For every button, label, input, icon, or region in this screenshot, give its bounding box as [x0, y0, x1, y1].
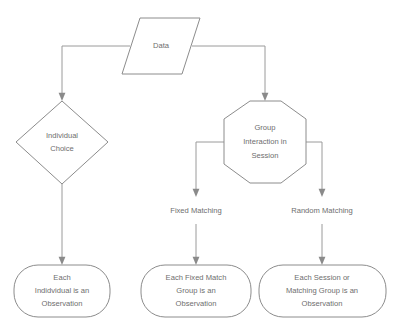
node-individual-observation-label-line1: Each [53, 273, 70, 282]
flowchart-canvas: Data Individual Choice Group Interaction… [0, 0, 405, 333]
individual-choice-diamond-shape [16, 101, 108, 184]
arrowhead-data-to-group-interaction [262, 93, 269, 101]
node-session-observation-label-line3: Observation [302, 299, 343, 308]
arrowhead-group-to-fixed-matching [193, 189, 200, 197]
node-fixed-match-observation[interactable]: Each Fixed Match Group is an Observation [141, 265, 251, 317]
node-individual-observation[interactable]: Each Indidvidual is an Observation [14, 265, 110, 317]
edge-group-to-fixed-matching [196, 142, 224, 190]
node-data-label: Data [153, 41, 170, 50]
arrowhead-fixed-matching-to-observation [193, 257, 200, 265]
node-individual-observation-label-line3: Observation [42, 299, 83, 308]
flowchart-svg: Data Individual Choice Group Interaction… [0, 0, 405, 333]
edge-label-random-matching: Random Matching [291, 206, 353, 215]
node-group-interaction-label-line2: Interaction in [243, 137, 286, 146]
node-data[interactable]: Data [122, 18, 200, 74]
node-fixed-match-observation-label-line2: Group is an [176, 286, 215, 295]
node-fixed-match-observation-label-line1: Each Fixed Match [166, 273, 227, 282]
node-session-observation[interactable]: Each Session or Matching Group is an Obs… [259, 265, 386, 317]
edge-label-fixed-matching: Fixed Matching [170, 206, 222, 215]
node-session-observation-label-line2: Matching Group is an [286, 286, 358, 295]
node-session-observation-label-line1: Each Session or [294, 273, 350, 282]
node-group-interaction[interactable]: Group Interaction in Session [224, 101, 306, 183]
node-individual-choice[interactable]: Individual Choice [16, 101, 108, 184]
edge-data-to-group-interaction [192, 46, 265, 94]
node-individual-observation-label-line2: Indidvidual is an [35, 286, 89, 295]
arrowhead-random-matching-to-observation [319, 257, 326, 265]
node-individual-choice-label-line2: Choice [50, 144, 74, 153]
node-group-interaction-label-line3: Session [251, 151, 278, 160]
node-group-interaction-label-line1: Group [254, 123, 275, 132]
arrowhead-individual-choice-to-observation [59, 257, 66, 265]
edge-data-to-individual-choice [62, 46, 130, 94]
edge-group-to-random-matching [306, 142, 322, 190]
arrowhead-group-to-random-matching [319, 189, 326, 197]
arrowhead-data-to-individual-choice [59, 93, 66, 101]
node-fixed-match-observation-label-line3: Observation [176, 299, 217, 308]
node-individual-choice-label-line1: Individual [46, 131, 78, 140]
